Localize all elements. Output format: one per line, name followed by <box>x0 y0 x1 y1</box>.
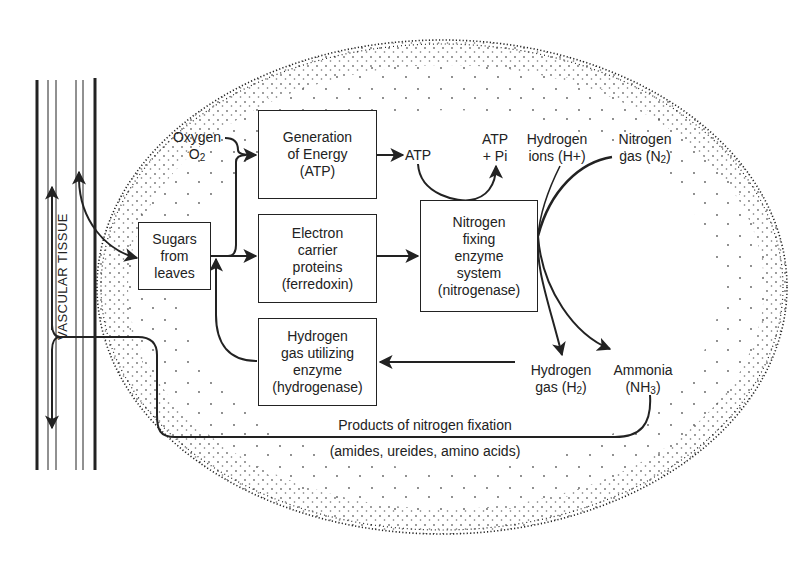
energy-line-2: of Energy <box>288 146 348 163</box>
nitrogenase-line-4: system <box>457 265 501 282</box>
products-detail-label: (amides, ureides, amino acids) <box>300 443 550 460</box>
hydrogenase-line-3: enzyme <box>293 362 342 379</box>
nodule-diagram <box>0 0 801 566</box>
electron-line-3: proteins <box>293 259 343 276</box>
nitrogenase-box: Nitrogen fixing enzyme system (nitrogena… <box>420 200 538 312</box>
electron-line-1: Electron <box>292 225 343 242</box>
sugars-line-1: Sugars <box>152 231 196 248</box>
ammonia-label: Ammonia (NH3) <box>610 362 676 399</box>
atp-label: ATP <box>405 147 431 164</box>
nitrogenase-line-2: fixing <box>463 231 496 248</box>
sugars-line-2: from <box>161 248 189 265</box>
energy-generation-box: Generation of Energy (ATP) <box>258 110 377 199</box>
electron-line-2: carrier <box>298 242 338 259</box>
nodule-boundary <box>0 0 801 566</box>
oxygen-text: Oxygen <box>173 129 221 145</box>
atp-pi-label: ATP + Pi <box>470 131 520 165</box>
energy-line-1: Generation <box>283 129 352 146</box>
products-label: Products of nitrogen fixation <box>310 417 540 434</box>
nitrogenase-line-1: Nitrogen <box>453 214 506 231</box>
electron-line-4: (ferredoxin) <box>282 276 354 293</box>
sugars-line-3: leaves <box>154 265 194 282</box>
energy-line-3: (ATP) <box>300 163 336 180</box>
hydrogen-gas-label: Hydrogen gas (H2) <box>526 362 596 399</box>
nitrogenase-line-3: enzyme <box>454 248 503 265</box>
oxygen-label: Oxygen O2 <box>168 129 226 166</box>
nitrogenase-line-5: (nitrogenase) <box>438 282 521 299</box>
o2-text: O2 <box>189 146 205 162</box>
hydrogenase-line-4: (hydrogenase) <box>272 379 362 396</box>
hydrogen-ions-label: Hydrogen ions (H+) <box>522 131 592 165</box>
electron-carrier-box: Electron carrier proteins (ferredoxin) <box>258 214 377 303</box>
nitrogen-gas-label: Nitrogen gas (N2) <box>613 131 677 168</box>
sugars-box: Sugars from leaves <box>138 222 211 290</box>
vascular-tissue-label: VASCULAR TISSUE <box>55 213 70 340</box>
hydrogenase-line-2: gas utilizing <box>281 345 354 362</box>
hydrogenase-line-1: Hydrogen <box>287 328 348 345</box>
hydrogenase-box: Hydrogen gas utilizing enzyme (hydrogena… <box>258 318 377 406</box>
